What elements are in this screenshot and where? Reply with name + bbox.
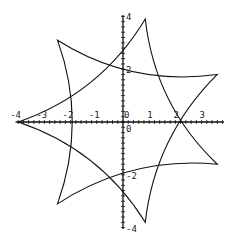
plot-canvas: -4-3-2-10123420-2-4 xyxy=(0,0,235,243)
y-tick-label: -2 xyxy=(126,171,137,181)
x-tick-label: -2 xyxy=(63,110,74,120)
x-tick-label: 2 xyxy=(173,110,178,120)
y-tick-label: 4 xyxy=(126,12,131,22)
x-tick-label: -1 xyxy=(89,110,100,120)
y-tick-label: 0 xyxy=(126,124,131,134)
x-tick-label: -4 xyxy=(10,110,21,120)
x-tick-label: -3 xyxy=(36,110,47,120)
y-tick-label: 2 xyxy=(126,65,131,75)
axes xyxy=(16,15,224,229)
y-tick-label: -4 xyxy=(126,224,137,234)
x-tick-label: 0 xyxy=(124,110,129,120)
x-tick-label: 3 xyxy=(200,110,205,120)
x-tick-label: 1 xyxy=(147,110,152,120)
